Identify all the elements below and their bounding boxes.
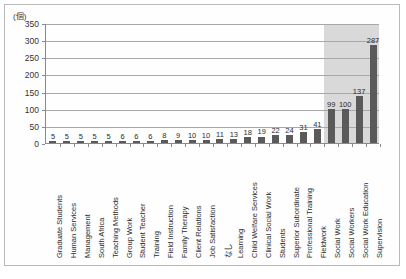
x-axis-tick-mark <box>269 144 270 147</box>
bar <box>286 135 293 143</box>
x-axis-category-label: なし <box>222 244 233 258</box>
x-axis-tick-mark <box>199 144 200 147</box>
x-axis-category-label: South Africa <box>97 218 106 258</box>
x-axis-category-label: Student Teacher <box>138 204 147 259</box>
x-axis-category-label: Professional Training <box>305 188 314 258</box>
x-axis-tick-mark <box>116 144 117 147</box>
bar <box>314 129 321 143</box>
x-axis-tick-mark <box>255 144 256 147</box>
bar <box>272 135 279 143</box>
bar-value-label: 287 <box>359 36 387 45</box>
plot-area: 5555566689101011131819222431419910013728… <box>45 24 379 144</box>
x-axis-category-label: Graduate Students <box>55 195 64 258</box>
bar <box>356 96 363 143</box>
x-axis-tick-mark <box>352 144 353 147</box>
x-axis-tick-mark <box>310 144 311 147</box>
y-axis-tick-label: 100 <box>9 105 39 115</box>
bar <box>300 132 307 143</box>
x-axis-tick-mark <box>338 144 339 147</box>
x-axis-category-label: Training <box>152 231 161 258</box>
x-axis-tick-mark <box>157 144 158 147</box>
gridline <box>46 41 379 42</box>
x-axis-category-label: Management <box>83 214 92 258</box>
bar <box>258 137 265 144</box>
x-axis-category-label: Social Workers <box>347 208 356 258</box>
bar <box>49 141 56 143</box>
bar <box>342 109 349 143</box>
bar <box>328 109 335 143</box>
x-axis-tick-mark <box>171 144 172 147</box>
x-axis-category-label: Social Work <box>333 218 342 258</box>
y-axis-tick-label: 300 <box>9 36 39 46</box>
bar <box>216 139 223 143</box>
x-axis-tick-mark <box>283 144 284 147</box>
x-axis-category-label: Students <box>278 228 287 258</box>
x-axis-category-label: Teaching Methods <box>111 197 120 258</box>
y-axis-tick-label: 0 <box>9 139 39 149</box>
bar <box>161 140 168 143</box>
x-axis-tick-mark <box>130 144 131 147</box>
x-axis-tick-mark <box>143 144 144 147</box>
x-axis-tick-mark <box>380 144 381 147</box>
bar <box>105 141 112 143</box>
x-axis-tick-mark <box>366 144 367 147</box>
bar <box>91 141 98 143</box>
bar <box>230 139 237 143</box>
x-axis-category-label: Client Relations <box>194 205 203 258</box>
x-axis-category-label: Family Therapy <box>180 206 189 258</box>
bar <box>147 141 154 143</box>
gridline <box>46 93 379 94</box>
x-axis-category-label: Learning <box>236 229 245 258</box>
x-axis-tick-mark <box>102 144 103 147</box>
x-axis-tick-mark <box>241 144 242 147</box>
bar <box>133 141 140 143</box>
gridline <box>46 58 379 59</box>
x-axis-tick-mark <box>74 144 75 147</box>
x-axis-category-label: Social Work Education <box>361 183 370 258</box>
x-axis-category-label: Fieldwork <box>319 226 328 258</box>
x-axis-tick-mark <box>324 144 325 147</box>
x-axis-category-label: Job Satisfaction <box>208 205 217 258</box>
x-axis-tick-mark <box>213 144 214 147</box>
x-axis-tick-mark <box>88 144 89 147</box>
x-axis-tick-mark <box>60 144 61 147</box>
bar <box>189 140 196 143</box>
y-axis-tick-label: 50 <box>9 122 39 132</box>
y-axis-tick-label: 250 <box>9 53 39 63</box>
y-axis-tick-label: 150 <box>9 88 39 98</box>
y-axis-tick-mark <box>42 144 45 145</box>
chart-figure: (個) 050100150200250300350 55555666891010… <box>4 4 400 266</box>
y-axis-tick-label: 200 <box>9 70 39 80</box>
bar <box>370 45 377 143</box>
x-axis-category-label: Supervision <box>375 219 384 258</box>
y-axis-tick-label: 350 <box>9 19 39 29</box>
bar <box>175 140 182 143</box>
x-axis-category-label: Human Services <box>69 203 78 258</box>
x-axis-category-label: Superior Subordinate <box>292 187 301 258</box>
x-axis-tick-mark <box>227 144 228 147</box>
gridline <box>46 75 379 76</box>
bar <box>203 140 210 143</box>
bar <box>244 137 251 143</box>
x-axis-category-label: Child Welfare Services <box>250 182 259 258</box>
bar <box>119 141 126 143</box>
bar <box>77 141 84 143</box>
x-axis-tick-mark <box>297 144 298 147</box>
x-axis-tick-mark <box>185 144 186 147</box>
x-axis-category-label: Group Work <box>125 218 134 258</box>
gridline <box>46 24 379 25</box>
x-axis-category-label: Field Instruction <box>166 205 175 258</box>
x-axis-category-label: Clinical Social Work <box>264 192 273 258</box>
bar <box>63 141 70 143</box>
